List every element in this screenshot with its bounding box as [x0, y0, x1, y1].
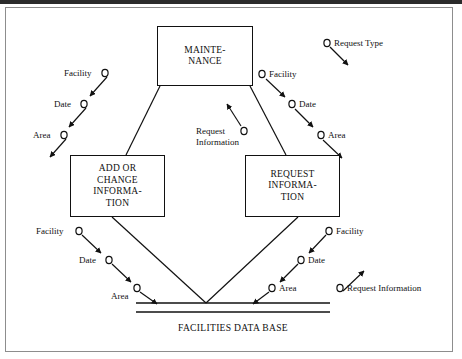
- flow-label-date-bottom-left: Date: [79, 255, 96, 266]
- flow-circle-facility-top-right: [259, 70, 265, 77]
- flow-label-facility-top-left: Facility: [64, 68, 92, 79]
- flow-label-request-type: Request Type: [334, 38, 383, 49]
- datastore-label: FACILITIES DATA BASE: [118, 322, 348, 333]
- process-request-info-line-2: INFORMA-: [268, 180, 317, 192]
- arrow-bottom-right-area: [253, 292, 269, 304]
- process-maintenance-line-1: MAINTE-: [184, 45, 226, 57]
- arrow-request-type: [330, 47, 348, 65]
- process-add-change-line-3: INFORMA-: [93, 186, 142, 198]
- connector-maintenance-to-add-change: [126, 86, 160, 155]
- process-add-change-line-4: TION: [106, 198, 130, 210]
- flow-circle-date-bottom-left: [106, 256, 112, 263]
- arrow-top-right-date: [295, 109, 313, 127]
- process-request-info-line-3: TION: [281, 192, 305, 204]
- flow-label-request-information-center-line-1: Request: [196, 126, 239, 137]
- flow-circle-request-information-bottom-right: [337, 284, 343, 291]
- arrow-top-left-date: [69, 108, 86, 127]
- flow-circle-area-bottom-right: [269, 284, 275, 291]
- process-add-change-line-2: CHANGE: [97, 175, 138, 187]
- flow-circle-area-top-right: [318, 131, 324, 138]
- connector-maintenance-to-request-info: [250, 86, 286, 155]
- flow-label-request-information-center-line-2: Information: [196, 137, 239, 148]
- process-request-info-line-1: REQUEST: [270, 169, 314, 181]
- flow-label-date-bottom-right: Date: [308, 255, 325, 266]
- flow-label-request-information-bottom-right: Request Information: [347, 283, 421, 294]
- arrow-top-right-facility: [266, 79, 285, 97]
- flow-label-area-bottom-right: Area: [279, 283, 297, 294]
- flow-circle-date-top-right: [289, 100, 295, 107]
- flow-label-area-top-left: Area: [33, 130, 51, 141]
- flow-circle-area-top-left: [61, 131, 67, 138]
- process-add-change-line-1: ADD OR: [99, 163, 136, 175]
- process-request-information[interactable]: REQUEST INFORMA- TION: [245, 155, 340, 217]
- flow-label-facility-bottom-left: Facility: [36, 226, 64, 237]
- process-maintenance[interactable]: MAINTE- NANCE: [157, 26, 253, 86]
- flow-circle-date-top-left: [81, 100, 87, 107]
- flow-circle-date-bottom-right: [298, 256, 304, 263]
- arrow-bottom-left-area: [140, 292, 157, 304]
- arrow-bottom-right-facility: [309, 235, 326, 253]
- flow-label-date-top-left: Date: [54, 99, 71, 110]
- arrow-top-left-area: [50, 139, 66, 157]
- arrow-bottom-left-facility: [82, 235, 101, 253]
- flow-label-area-top-right: Area: [328, 130, 346, 141]
- datastore-lines: [136, 303, 330, 312]
- arrow-top-left-facility: [90, 77, 107, 96]
- flow-label-facility-top-right: Facility: [269, 69, 297, 80]
- flow-circle-facility-bottom-left: [76, 227, 82, 234]
- flow-label-request-information-center: Request Information: [196, 126, 239, 148]
- flow-circle-area-bottom-left: [134, 284, 140, 291]
- process-maintenance-line-2: NANCE: [188, 56, 222, 68]
- flow-label-area-bottom-left: Area: [111, 291, 129, 302]
- flow-circle-facility-top-left: [102, 69, 108, 76]
- flow-circle-request-type: [324, 39, 330, 46]
- arrow-bottom-left-date: [112, 264, 131, 282]
- arrow-center-request-information: [227, 104, 241, 126]
- flow-label-date-top-right: Date: [299, 99, 316, 110]
- flow-circle-facility-bottom-right: [326, 227, 332, 234]
- flow-label-facility-bottom-right: Facility: [336, 226, 364, 237]
- process-add-or-change-information[interactable]: ADD OR CHANGE INFORMA- TION: [70, 155, 165, 217]
- flow-circle-request-information-center: [241, 127, 247, 134]
- diagram-canvas: MAINTE- NANCE ADD OR CHANGE INFORMA- TIO…: [0, 0, 462, 359]
- arrow-bottom-right-date: [280, 264, 298, 282]
